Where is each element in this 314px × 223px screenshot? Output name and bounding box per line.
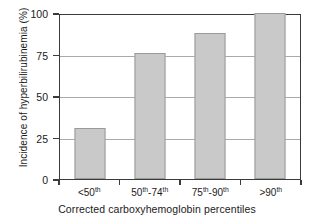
y-tick-label-25: 25 <box>8 134 48 144</box>
plot-area <box>59 14 301 180</box>
x-tick-label-2: 75th-90th <box>180 186 241 198</box>
x-tick-mark-1 <box>119 180 120 185</box>
y-tick-label-50: 50 <box>8 92 48 102</box>
bar-slot-1 <box>120 15 180 179</box>
bar-series <box>60 15 300 179</box>
x-axis-title: Corrected carboxyhemoglobin percentiles <box>0 203 314 215</box>
bar-50th-74th <box>135 53 166 179</box>
bar->90th <box>255 13 286 179</box>
bar-75th-90th <box>195 33 226 179</box>
y-tick-label-100: 100 <box>8 9 48 19</box>
bar-<50th <box>75 128 106 179</box>
bar-slot-2 <box>180 15 240 179</box>
bar-slot-3 <box>240 15 300 179</box>
y-tick-label-75: 75 <box>8 51 48 61</box>
x-axis-tick-labels: <50th50th-74th75th-90th>90th <box>59 186 301 202</box>
x-tick-mark-0 <box>58 180 59 185</box>
bar-chart-figure: Incidence of hyperbilirubinemia (%) 0255… <box>0 0 314 223</box>
x-tick-label-1: 50th-74th <box>120 186 181 198</box>
x-tick-label-0: <50th <box>59 186 120 198</box>
x-tick-mark-3 <box>240 180 241 185</box>
y-tick-label-0: 0 <box>8 175 48 185</box>
bar-slot-0 <box>60 15 120 179</box>
x-tick-mark-2 <box>179 180 180 185</box>
x-tick-mark-4 <box>300 180 301 185</box>
x-tick-label-3: >90th <box>241 186 302 198</box>
